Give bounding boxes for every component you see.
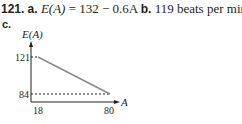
- y-tick-121: 121: [15, 52, 30, 63]
- x-axis-label: A: [120, 96, 128, 108]
- x-tick-18: 18: [33, 105, 43, 116]
- x-axis-arrow-icon: [114, 100, 120, 104]
- y-axis-label: E(A): [21, 28, 43, 41]
- y-axis-arrow-icon: [29, 41, 33, 47]
- x-tick-80: 80: [104, 105, 114, 116]
- data-line: [38, 57, 110, 94]
- y-tick-84: 84: [19, 89, 29, 100]
- graph: E(A) A 121 84 18 80: [0, 0, 242, 124]
